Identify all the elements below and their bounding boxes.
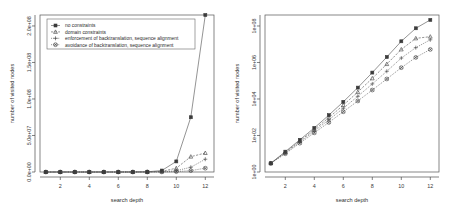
- x-tick-label: 10: [173, 183, 179, 189]
- y-axis: 1e+001e+021e+041e+061e+08number of visit…: [234, 15, 260, 180]
- legend-label: enforcement of backtranslation, sequence…: [65, 36, 179, 41]
- series-line-path: [46, 168, 206, 172]
- data-point-marker: [414, 27, 417, 30]
- data-point-marker: [429, 18, 432, 21]
- chart-panel-log: 24681012search depth1e+001e+021e+041e+06…: [225, 0, 449, 219]
- legend: no constraintsdomain constraintsenforcem…: [47, 19, 195, 49]
- x-tick-label: 12: [427, 183, 433, 189]
- data-point-marker: [54, 24, 57, 27]
- y-axis-title: number of visited nodes: [234, 64, 240, 124]
- series-3: [269, 38, 433, 165]
- x-tick-label: 12: [202, 183, 208, 189]
- x-tick-label: 10: [398, 183, 404, 189]
- legend-entry-4: avoidance of backtranslation, sequence a…: [51, 43, 174, 48]
- series-1: [269, 18, 432, 164]
- data-point-marker: [385, 55, 388, 58]
- y-tick-label: 0.0e+00: [26, 162, 32, 182]
- x-tick-label: 8: [146, 183, 149, 189]
- data-point-marker: [400, 40, 403, 43]
- series-line-path: [46, 153, 206, 172]
- y-tick-label: 5.0e+07: [26, 126, 32, 146]
- y-tick-label: 1e+00: [251, 164, 257, 179]
- x-tick-label: 6: [117, 183, 120, 189]
- log-plot-svg: 24681012search depth1e+001e+021e+041e+06…: [225, 0, 449, 219]
- figure-container: 24681012search depth0.0e+005.0e+071.0e+0…: [0, 0, 449, 219]
- y-tick-label: 1.0e+08: [26, 89, 32, 109]
- series-line-path: [271, 20, 431, 163]
- y-tick-label: 1e+04: [251, 91, 257, 106]
- chart-panel-linear: 24681012search depth0.0e+005.0e+071.0e+0…: [0, 0, 224, 219]
- y-tick-label: 1e+02: [251, 128, 257, 143]
- y-tick-label: 1.5e+08: [26, 53, 32, 73]
- x-axis: 24681012search depth: [40, 177, 214, 203]
- data-point-marker: [204, 14, 207, 17]
- x-tick-label: 8: [371, 183, 374, 189]
- x-tick-label: 4: [313, 183, 316, 189]
- x-tick-label: 6: [342, 183, 345, 189]
- y-axis: 0.0e+005.0e+071.0e+081.5e+082.0e+08numbe…: [9, 15, 35, 182]
- linear-plot-svg: 24681012search depth0.0e+005.0e+071.0e+0…: [0, 0, 224, 219]
- data-point-marker: [189, 116, 192, 119]
- legend-label: avoidance of backtranslation, sequence a…: [65, 43, 174, 48]
- y-tick-label: 1e+06: [251, 55, 257, 70]
- x-tick-label: 2: [284, 183, 287, 189]
- x-tick-label: 2: [59, 183, 62, 189]
- legend-label: domain constraints: [65, 30, 107, 35]
- y-axis-title: number of visited nodes: [9, 64, 15, 124]
- series-line-path: [46, 159, 206, 172]
- series-4: [44, 166, 207, 174]
- x-tick-label: 4: [88, 183, 91, 189]
- legend-label: no constraints: [65, 23, 96, 28]
- y-tick-label: 1e+08: [251, 18, 257, 33]
- x-axis-title: search depth: [111, 197, 143, 203]
- data-point-marker: [175, 160, 178, 163]
- legend-entry-3: enforcement of backtranslation, sequence…: [51, 36, 179, 41]
- data-point-marker: [371, 71, 374, 74]
- x-axis: 24681012search depth: [265, 177, 439, 203]
- series-2: [44, 151, 207, 173]
- x-axis-title: search depth: [336, 197, 368, 203]
- data-point-marker: [356, 86, 359, 89]
- series-4: [269, 48, 432, 166]
- data-point-marker: [428, 35, 432, 39]
- y-tick-label: 2.0e+08: [26, 16, 32, 36]
- data-point-marker: [203, 151, 207, 155]
